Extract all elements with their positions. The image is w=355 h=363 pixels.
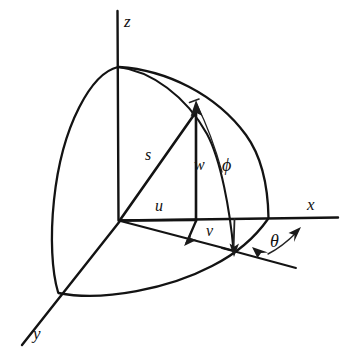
projection-riser-line — [234, 219, 235, 250]
arc-point-meridian — [119, 67, 234, 250]
segment-label-w: w — [194, 157, 205, 173]
z-axis-line — [118, 11, 119, 221]
segment-label-v: v — [206, 223, 213, 239]
phi-arrow-tick — [190, 99, 200, 103]
segment-label-u: u — [155, 198, 163, 214]
axis-label-y: y — [33, 325, 41, 342]
coordinate-diagram — [0, 0, 355, 363]
axis-label-z: z — [124, 13, 131, 30]
segment-u-line — [120, 220, 196, 221]
arc-zy-meridian — [52, 67, 118, 292]
theta-arrow-head-right — [289, 227, 302, 242]
axis-label-x: x — [307, 196, 315, 213]
sphere-octant-arcs — [52, 67, 269, 296]
angle-label-theta: θ — [270, 232, 279, 250]
vector-triangle-group — [120, 112, 235, 251]
segment-label-s: s — [145, 147, 151, 163]
projection-base-line — [121, 221, 234, 251]
angle-label-phi: ϕ — [222, 156, 231, 174]
arc-zx-meridian — [119, 67, 269, 218]
figure-container: z x y s w u v ϕ θ — [0, 0, 355, 363]
